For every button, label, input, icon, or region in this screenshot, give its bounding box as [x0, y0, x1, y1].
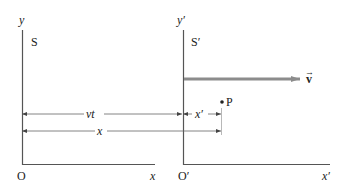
s-prime-origin-label: O′ [178, 169, 190, 183]
s-y-axis-label: y [18, 13, 25, 27]
vector-arrow-icon: → [305, 67, 314, 77]
x-label: x [96, 124, 103, 138]
s-x-axis-label: x [149, 169, 156, 183]
point-p-label: P [226, 95, 233, 109]
frame-s-prime-axes [183, 30, 330, 165]
galilean-transformation-diagram: y S O x y′ S′ O′ x′ v → P vt x′ x [0, 0, 343, 188]
s-prime-y-axis-label: y′ [176, 13, 185, 27]
s-origin-label: O [17, 169, 26, 183]
point-p-dot [220, 100, 224, 104]
frame-s-axes [22, 30, 155, 165]
s-prime-x-axis-label: x′ [321, 169, 330, 183]
x-prime-label: x′ [194, 107, 203, 121]
frame-s-prime-label: S′ [191, 35, 201, 49]
frame-s-label: S [31, 35, 38, 49]
vt-label: vt [86, 107, 95, 121]
